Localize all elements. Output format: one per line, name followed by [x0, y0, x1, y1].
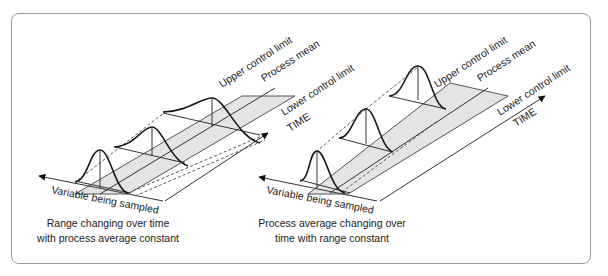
left-caption-line2: with process average constant [36, 232, 179, 244]
control-chart-diagram: Upper control limit Process mean Lower c… [0, 0, 608, 276]
left-mean-line [100, 88, 275, 194]
right-caption-line1: Process average changing over [258, 217, 406, 229]
left-control-band [75, 96, 295, 194]
right-panel: Upper control limit Process mean Lower c… [258, 33, 572, 244]
left-panel: Upper control limit Process mean Lower c… [36, 33, 356, 244]
right-caption-line2: time with range constant [275, 232, 389, 244]
right-mean-line [330, 88, 488, 193]
left-caption-line1: Range changing over time [47, 217, 170, 229]
left-lower-limit-label: Lower control limit [279, 61, 357, 117]
